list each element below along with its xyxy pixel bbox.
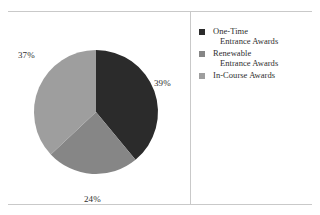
frame-bottom-rule [8,204,312,205]
legend-label-in-course: In-Course Awards [213,70,317,80]
legend-divider-rule [190,11,191,205]
legend-label-renewable-line1: Renewable [213,48,251,58]
legend-label-one-time-line1: One-Time [213,26,248,36]
legend-label-renewable-line2: Entrance Awards [213,58,317,68]
legend-swatch-one-time-icon [199,29,205,35]
legend-label-one-time: One-Time Entrance Awards [213,26,317,46]
legend-swatch-in-course-icon [199,73,205,79]
plot-area: 39% 24% 37% [8,12,190,204]
legend-item-one-time[interactable]: One-Time Entrance Awards [199,26,317,46]
slice-label-renewable: 24% [84,194,101,204]
legend-item-in-course[interactable]: In-Course Awards [199,70,317,80]
legend-label-in-course-line1: In-Course Awards [213,70,275,80]
legend-swatch-renewable-icon [199,51,205,57]
pie-graphic [8,12,190,204]
slice-label-in-course: 37% [18,50,35,60]
slice-label-one-time: 39% [154,78,171,88]
legend: One-Time Entrance Awards Renewable Entra… [199,26,317,82]
legend-label-renewable: Renewable Entrance Awards [213,48,317,68]
pie-chart-figure: 39% 24% 37% One-Time Entrance Awards Ren… [0,0,320,215]
legend-item-renewable[interactable]: Renewable Entrance Awards [199,48,317,68]
legend-label-one-time-line2: Entrance Awards [213,36,317,46]
